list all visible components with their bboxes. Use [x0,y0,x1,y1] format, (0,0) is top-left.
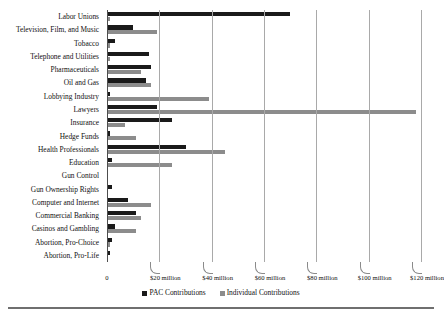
bar-pac [107,25,133,29]
y-axis-label: Tobacco [74,39,99,48]
bar-pac [107,145,186,149]
x-axis-tick-label: $80 million [307,274,338,282]
y-axis-label: Commercial Banking [36,211,99,220]
footer-divider [8,307,434,309]
y-axis-label: Computer and Internet [32,198,99,207]
bar-pac [107,118,172,122]
bar-individual [107,83,151,87]
y-axis-label: Health Professionals [38,145,99,154]
gridline-120 [421,10,422,262]
bar-individual [107,136,136,140]
legend-label-pac: PAC Contributions [149,288,205,298]
legend-item-pac: PAC Contributions [142,288,205,298]
gridline-80 [316,10,317,262]
legend-label-individual: Individual Contributions [227,288,300,298]
y-axis-label: Pharmaceuticals [51,65,99,74]
bar-individual [107,123,125,127]
bar-individual [107,203,151,207]
x-axis-tick-labels: 0$20 million$40 million$60 million$80 mi… [0,262,442,284]
chart-legend: PAC Contributions Individual Contributio… [0,288,442,298]
bar-individual [107,30,157,34]
x-axis-tick-mark [307,262,317,274]
bar-individual [107,70,141,74]
y-axis-label: Lobbying Industry [44,92,99,101]
bar-individual [107,229,136,233]
gridline-40 [212,10,213,262]
y-axis-label: Education [69,158,99,167]
x-axis-tick-mark [412,262,422,274]
bar-pac [107,52,149,56]
y-axis-label: Abortion, Pro-Life [44,251,99,260]
x-axis-tick-label: $100 million [358,274,392,282]
x-axis-tick-mark [150,262,160,274]
y-axis-label: Lawyers [74,105,99,114]
x-axis-tick-label: $120 million [410,274,444,282]
y-axis-label: Abortion, Pro-Choice [35,238,99,247]
bar-pac [107,211,136,215]
bar-individual [107,163,172,167]
y-axis-label: Insurance [70,118,99,127]
y-axis-label: Hedge Funds [60,132,99,141]
x-axis-tick-label: $40 million [202,274,233,282]
bar-pac [107,224,115,228]
bar-pac [107,12,290,16]
x-axis-tick-mark [203,262,213,274]
bar-pac [107,39,115,43]
x-axis-tick-mark [255,262,265,274]
x-axis-tick-label: 0 [105,274,108,282]
bar-pac [107,105,157,109]
y-axis-label: Oil and Gas [64,78,99,87]
y-axis-label: Labor Unions [58,12,99,21]
bar-individual [107,216,141,220]
y-axis-category-labels: Labor UnionsTelevision, Film, and MusicT… [0,10,103,262]
plot-area [107,10,421,262]
y-axis-label: Casinos and Gambling [32,224,99,233]
y-axis-label: Gun Ownership Rights [31,185,99,194]
bar-individual [107,97,209,101]
x-axis-tick-mark [360,262,370,274]
bar-pac [107,198,128,202]
y-axis-label: Telephone and Utilities [30,52,99,61]
gridline-100 [369,10,370,262]
y-axis-label: Television, Film, and Music [16,25,99,34]
x-axis-tick-label: $20 million [150,274,181,282]
legend-item-individual: Individual Contributions [220,288,300,298]
gridline-60 [264,10,265,262]
bar-individual [107,150,225,154]
bar-pac [107,78,146,82]
bar-pac [107,65,151,69]
gridline-20 [159,10,160,262]
legend-swatch-individual-icon [220,291,225,296]
value-axis-line [107,10,108,262]
x-axis-tick-label: $60 million [255,274,286,282]
y-axis-label: Gun Control [62,171,99,180]
legend-swatch-pac-icon [142,291,147,296]
